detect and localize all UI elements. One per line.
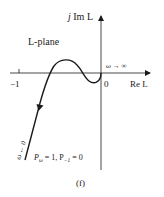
origin-label: 0 [104,79,109,89]
nyquist-curve [25,60,101,160]
imag-axis-label: j Im L [66,11,93,22]
omega-infinity-label: ω → ∞ [106,62,126,70]
encirclement-note: Pω = 1, P−1 = 0 [33,153,83,163]
real-axis-label: Re L [130,79,148,89]
plane-label: L-plane [28,36,60,47]
nyquist-diagram: j Im L L-plane ω → ∞ 0 Re L −1 ω ← 0 Pω … [0,0,164,197]
minus-one-label: −1 [10,79,20,89]
figure-label: (f) [76,178,85,188]
